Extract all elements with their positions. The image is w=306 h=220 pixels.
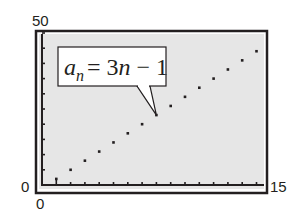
data-point xyxy=(241,59,244,62)
data-point xyxy=(184,96,187,99)
data-point xyxy=(98,150,101,153)
data-point xyxy=(169,105,172,108)
formula-rhs: = 3n − 1 xyxy=(87,54,168,80)
formula-base: a xyxy=(64,54,76,80)
x-min-label: 0 xyxy=(36,195,44,212)
x-max-label: 15 xyxy=(270,178,287,195)
data-point xyxy=(112,141,115,144)
data-point xyxy=(212,77,215,80)
data-point xyxy=(55,178,58,181)
data-point xyxy=(127,132,130,135)
data-point xyxy=(255,50,258,53)
data-point xyxy=(69,169,72,172)
y-min-label: 0 xyxy=(21,178,29,195)
data-point xyxy=(84,159,87,162)
sequence-scatter-chart: an= 3n − 1 50 0 0 15 xyxy=(0,0,306,220)
data-point xyxy=(141,123,144,126)
data-point xyxy=(198,86,201,89)
formula-subscript: n xyxy=(76,67,84,84)
y-max-label: 50 xyxy=(32,12,49,29)
data-point xyxy=(227,68,230,71)
